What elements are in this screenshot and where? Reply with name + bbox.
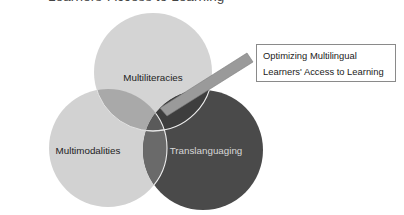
venn-diagram [0,0,404,215]
label-translanguaging: Translanguaging [170,145,243,156]
label-multimodalities: Multimodalities [56,145,121,156]
callout-line-1: Optimizing Multilingual [263,48,395,64]
callout-box: Optimizing Multilingual Learners' Access… [256,44,396,82]
label-multiliteracies: Multiliteracies [123,72,182,83]
callout-line-2: Learners' Access to Learning [263,64,395,80]
